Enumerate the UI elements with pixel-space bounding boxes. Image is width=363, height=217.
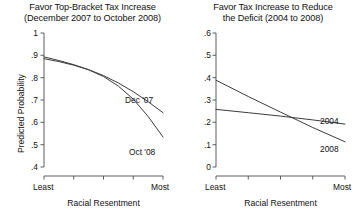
panel-left-plot-area: 1 .9 .8 .7 .6 .5 .4 Predicted Probabilit…: [0, 0, 185, 217]
panel-right-ytick-label-03: .3: [195, 96, 211, 104]
chart-panel-right: Favor Tax Increase to Reduce the Deficit…: [183, 0, 363, 217]
panel-left-ytick-label-04: .4: [22, 163, 38, 171]
panel-right-ytick-label-06: .6: [195, 29, 211, 37]
panel-left-ytick-label-09: .9: [22, 51, 38, 59]
panel-right-x-axis-label: Racial Resentment: [216, 198, 345, 208]
chart-panel-left: Favor Top-Bracket Tax Increase (December…: [0, 0, 185, 217]
panel-right-series-label-2008: 2008: [320, 145, 339, 153]
panel-right-ytick-label-01: .1: [195, 141, 211, 149]
panel-left-x-axis-label: Racial Resentment: [44, 198, 163, 208]
panel-left-xtick-label-least: Least: [33, 183, 54, 191]
panel-left-xtick-label-most: Most: [151, 183, 169, 191]
panel-right-xtick-label-least: Least: [205, 183, 226, 191]
panel-right-ytick-label-04: .4: [195, 74, 211, 82]
panel-left-ytick-label-1: 1: [22, 29, 38, 37]
panel-right-series-label-2004: 2004: [320, 117, 339, 125]
panel-right-ytick-label-05: .5: [195, 51, 211, 59]
panel-right-plot-area: .6 .5 .4 .3 .2 .1 0 Least Most Racial Re…: [183, 0, 363, 217]
panel-left-y-axis-label: Predicted Probability: [16, 74, 26, 153]
figure-two-panel-chart: Favor Top-Bracket Tax Increase (December…: [0, 0, 363, 217]
panel-right-ytick-label-0: 0: [195, 163, 211, 171]
panel-right-xtick-label-most: Most: [333, 183, 351, 191]
panel-left-series-label-oct08: Oct '08: [129, 148, 155, 156]
panel-left-series-label-dec07: Dec '07: [125, 96, 153, 104]
panel-right-ytick-label-02: .2: [195, 118, 211, 126]
